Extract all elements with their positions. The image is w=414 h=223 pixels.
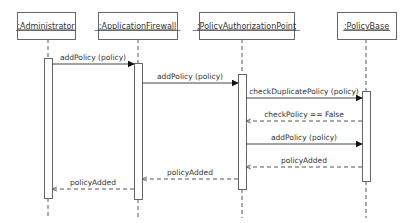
object-label: :ApplicationFirewall [99,22,177,31]
message-label: addPolicy (policy) [60,53,126,62]
activation-bar [135,64,143,200]
messages-layer: addPolicy (policy)addPolicy (policy)chec… [52,53,362,189]
message-label: addPolicy (policy) [157,72,223,81]
activation-bar [363,92,371,182]
message-call: addPolicy (policy) [52,53,134,64]
object-label: :PolicyBase [344,22,389,31]
message-return: checkPolicy == False [246,110,362,121]
message-label: policyAdded [281,156,327,165]
message-label: policyAdded [70,178,116,187]
message-label: policyAdded [167,168,213,177]
message-label: checkPolicy == False [264,110,344,119]
message-call: addPolicy (policy) [142,72,238,83]
lifeline-fw: :ApplicationFirewall [95,13,181,219]
message-return: policyAdded [246,156,362,167]
lifeline-admin: :Administrator [16,13,76,219]
lifeline-pb: :PolicyBase [338,13,397,219]
message-return: policyAdded [52,178,134,189]
object-label: :PolicyAuthorizationPoint [197,22,296,31]
activation-bar [45,59,53,199]
activation-bar [239,75,247,190]
object-label: :Administrator [17,22,75,31]
message-return: policyAdded [142,168,238,179]
message-label: checkDuplicatePolicy (policy) [249,87,359,96]
message-call: addPolicy (policy) [246,133,362,144]
message-label: addPolicy (policy) [271,133,337,142]
sequence-diagram: :Administrator:ApplicationFirewall:Polic… [0,0,414,223]
message-call: checkDuplicatePolicy (policy) [246,87,362,98]
